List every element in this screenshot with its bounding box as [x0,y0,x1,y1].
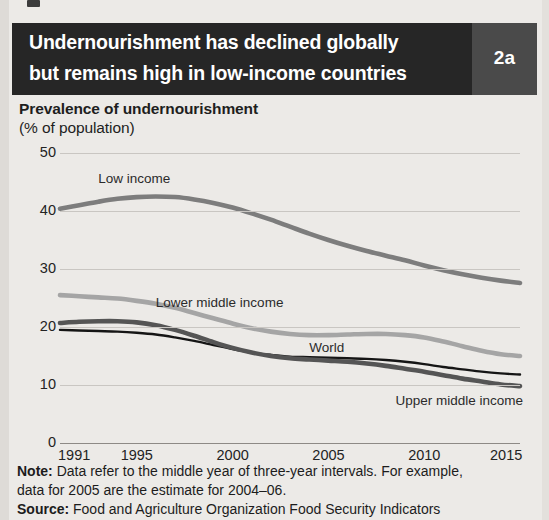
gridline-y-40 [60,211,520,212]
y-tick-label-50: 50 [12,144,56,160]
figure-page: Undernourishment has declined globally b… [0,0,549,520]
page-top-artifact [27,0,40,7]
x-tick-label-1991: 1991 [58,447,90,463]
y-tick-label-40: 40 [12,202,56,218]
footnote-note-line-1: Note: Data refer to the middle year of t… [17,462,537,481]
figure-title-line-1: Undernourishment has declined globally [29,31,398,53]
gridline-y-30 [60,269,520,270]
figure-footnote: Note: Data refer to the middle year of t… [17,462,537,519]
figure-title: Undernourishment has declined globally b… [29,27,459,89]
chart-subtitle: (% of population) [19,119,134,137]
footnote-source-text: Food and Agriculture Organization Food S… [69,501,440,517]
y-tick-label-10: 10 [12,376,56,392]
gridline-y-0 [60,443,520,444]
x-tick-label-2000: 2000 [217,447,249,463]
line-series-lower-middle-income [60,295,520,356]
series-label-upper-middle-income: Upper middle income [395,393,523,408]
series-label-lower-middle-income: Lower middle income [156,295,284,310]
y-axis-tick-labels: 01020304050 [0,153,56,443]
figure-header-banner: Undernourishment has declined globally b… [12,23,537,95]
y-tick-label-30: 30 [12,260,56,276]
series-label-world: World [309,340,344,355]
line-series-world [60,330,520,375]
x-tick-label-2010: 2010 [408,447,440,463]
chart-title: Prevalence of undernourishment [19,100,258,118]
footnote-note-label: Note: [17,463,53,479]
line-series-upper-middle-income [60,321,520,386]
gridline-y-50 [60,153,520,154]
figure-number-badge-label: 2a [472,47,537,69]
series-label-low-income: Low income [98,171,170,186]
x-tick-label-1995: 1995 [121,447,153,463]
y-tick-label-20: 20 [12,318,56,334]
page-right-margin [542,0,549,520]
footnote-source-label: Source: [17,501,69,517]
x-tick-label-2005: 2005 [312,447,344,463]
figure-number-badge: 2a [472,23,537,95]
footnote-note-line-2: data for 2005 are the estimate for 2004–… [17,481,537,500]
footnote-note-text-1: Data refer to the middle year of three-y… [53,463,463,479]
figure-title-line-2: but remains high in low-income countries [29,58,459,89]
y-tick-label-0: 0 [12,434,56,450]
gridline-y-10 [60,385,520,386]
gridline-y-20 [60,327,520,328]
footnote-source-line: Source: Food and Agriculture Organizatio… [17,500,537,519]
x-tick-label-2015: 2015 [490,447,522,463]
